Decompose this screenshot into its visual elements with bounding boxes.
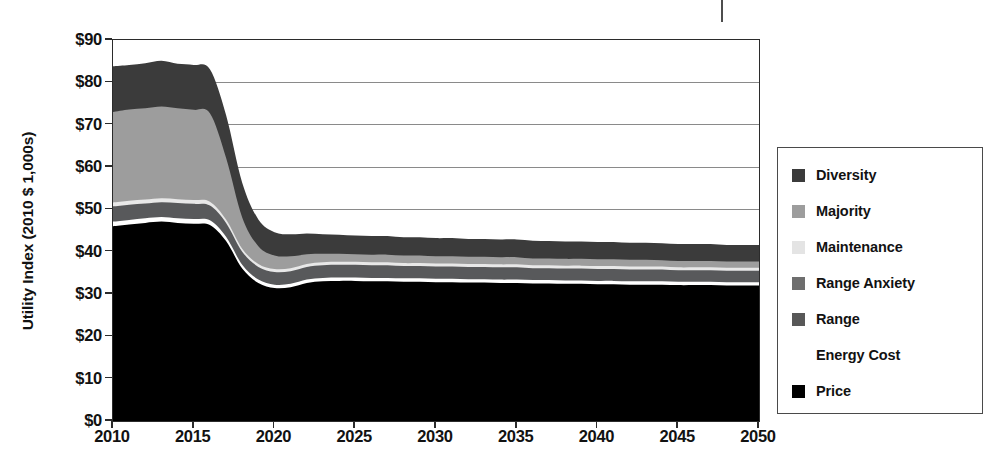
legend-label: Range Anxiety (816, 276, 915, 291)
x-tick-label: 2010 (72, 428, 152, 445)
legend-swatch-icon (792, 277, 805, 290)
legend-label: Majority (816, 204, 871, 219)
x-tick-label: 2035 (476, 428, 556, 445)
x-tick-label: 2045 (637, 428, 717, 445)
legend-swatch-icon (792, 169, 805, 182)
legend-swatch-icon (792, 241, 805, 254)
legend-item-majority[interactable]: Majority (778, 193, 982, 229)
x-tick-label: 2030 (395, 428, 475, 445)
legend-label: Energy Cost (816, 348, 900, 363)
chart-figure: Utility Index (2010 $ 1,000s) $90$80$70$… (0, 0, 998, 472)
legend-item-maintenance[interactable]: Maintenance (778, 229, 982, 265)
legend-label: Maintenance (816, 240, 903, 255)
x-tick-label: 2025 (314, 428, 394, 445)
stacked-area-plot (113, 40, 759, 421)
x-tick-label: 2015 (153, 428, 233, 445)
legend-item-range-anxiety[interactable]: Range Anxiety (778, 265, 982, 301)
x-tick-label: 2050 (718, 428, 798, 445)
legend-swatch-icon (792, 313, 805, 326)
legend-item-energy-cost[interactable]: Energy Cost (778, 337, 982, 373)
legend-item-price[interactable]: Price (778, 373, 982, 409)
x-tick-label: 2020 (234, 428, 314, 445)
chart-legend: DiversityMajorityMaintenanceRange Anxiet… (777, 147, 983, 414)
legend-item-range[interactable]: Range (778, 301, 982, 337)
scan-artifact-mark (721, 0, 723, 22)
legend-label: Range (816, 312, 860, 327)
plot-area (112, 39, 760, 422)
legend-swatch-icon (792, 385, 805, 398)
legend-label: Diversity (816, 168, 876, 183)
legend-label: Price (816, 384, 851, 399)
legend-swatch-icon (792, 205, 805, 218)
x-tick-label: 2040 (557, 428, 637, 445)
legend-swatch-icon (792, 349, 805, 362)
legend-item-diversity[interactable]: Diversity (778, 157, 982, 193)
